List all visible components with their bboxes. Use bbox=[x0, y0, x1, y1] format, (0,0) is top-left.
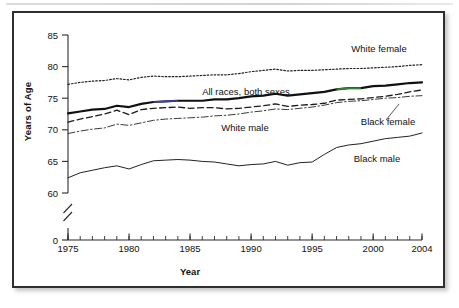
plot-area: Years of Age Year 85 bbox=[0, 0, 459, 308]
y-ticks-group: 85 80 75 70 65 60 0 bbox=[47, 30, 68, 246]
y-axis-break-mark-2 bbox=[64, 212, 73, 221]
series-line-white-female bbox=[68, 65, 422, 85]
x-major-ticks-group bbox=[68, 234, 422, 241]
x-tick-label-2004: 2004 bbox=[411, 243, 432, 254]
annotation-white-male: White male bbox=[221, 122, 269, 133]
x-tick-label-1990: 1990 bbox=[241, 243, 262, 254]
y-tick-label-80: 80 bbox=[47, 61, 58, 72]
annotation-black-female: Black female bbox=[361, 116, 415, 127]
y-tick-label-65: 65 bbox=[47, 156, 58, 167]
x-tick-label-1975: 1975 bbox=[57, 243, 78, 254]
annotation-white-female: White female bbox=[351, 43, 406, 54]
x-tick-label-1980: 1980 bbox=[118, 243, 139, 254]
y-tick-label-85: 85 bbox=[47, 30, 58, 41]
y-tick-label-75: 75 bbox=[47, 93, 58, 104]
figure-page: Years of Age Year 85 bbox=[0, 0, 459, 308]
line-chart-svg: 85 80 75 70 65 60 0 19751980198519901995… bbox=[0, 0, 459, 308]
x-tick-label-2000: 2000 bbox=[363, 243, 384, 254]
x-tick-label-1985: 1985 bbox=[179, 243, 200, 254]
x-tick-label-1995: 1995 bbox=[302, 243, 323, 254]
y-tick-label-60: 60 bbox=[47, 188, 58, 199]
y-tick-label-70: 70 bbox=[47, 124, 58, 135]
series-annotations-group: White femaleAll races, both sexesBlack f… bbox=[202, 43, 415, 164]
x-minor-ticks-group bbox=[68, 236, 422, 240]
annotation-all-races-both-sexes: All races, both sexes bbox=[202, 86, 290, 97]
y-axis-break-mark-1 bbox=[64, 204, 73, 213]
annotation-black-male: Black male bbox=[354, 153, 400, 164]
axes-group bbox=[64, 35, 423, 240]
x-tick-labels-group: 1975198019851990199520002004 bbox=[57, 243, 432, 254]
